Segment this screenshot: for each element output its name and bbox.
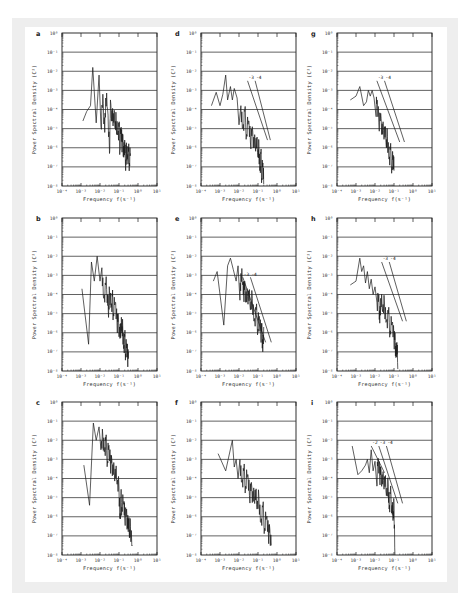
panel-letter: g xyxy=(311,30,316,38)
y-tick-label: 10⁻⁴ xyxy=(186,292,197,297)
x-tick-label: 10⁻² xyxy=(369,558,380,563)
x-tick-label: 10⁰ xyxy=(273,189,282,194)
panel-letter: b xyxy=(36,215,41,223)
panel-b: 10⁰10⁻¹10⁻²10⁻³10⁻⁴10⁻⁵10⁻⁶10⁻⁷10⁻⁸10⁻⁴1… xyxy=(31,215,161,388)
x-tick-label: 10⁻² xyxy=(94,374,105,379)
y-tick-label: 10⁻³ xyxy=(322,457,333,462)
x-tick-label: 10⁻¹ xyxy=(252,558,263,563)
x-tick-label: 10⁰ xyxy=(409,189,418,194)
x-tick-label: 10⁰ xyxy=(134,189,143,194)
y-tick-label: 10⁻³ xyxy=(322,88,333,93)
panel-letter: a xyxy=(36,30,40,38)
panel-f: 10⁰10⁻¹10⁻²10⁻³10⁻⁴10⁻⁵10⁻⁶10⁻⁷10⁻⁸10⁻⁴1… xyxy=(170,399,300,572)
y-tick-label: 10⁻² xyxy=(47,69,58,74)
spectrum-line xyxy=(218,440,271,545)
x-tick-label: 10⁻⁴ xyxy=(195,374,206,379)
y-tick-label: 10⁻³ xyxy=(186,88,197,93)
y-tick-label: 10⁻¹ xyxy=(322,50,333,55)
x-tick-label: 10⁻² xyxy=(369,374,380,379)
y-tick-label: 10⁰ xyxy=(189,400,198,405)
x-tick-label: 10⁰ xyxy=(134,558,143,563)
slope-label: -3 xyxy=(383,256,389,261)
x-tick-label: 10⁻¹ xyxy=(252,374,263,379)
y-axis-label: Power Spectral Density (C²) xyxy=(170,250,177,340)
y-tick-label: 10⁰ xyxy=(189,216,198,221)
x-tick-label: 10⁻² xyxy=(233,189,244,194)
y-tick-label: 10⁻¹ xyxy=(186,419,197,424)
y-tick-label: 10⁻⁸ xyxy=(322,369,333,374)
x-tick-label: 10¹ xyxy=(292,558,301,563)
x-tick-label: 10⁻⁴ xyxy=(56,558,67,563)
x-axis-label: Frequency f(s⁻¹) xyxy=(358,196,411,203)
x-tick-label: 10⁻¹ xyxy=(388,558,399,563)
y-tick-label: 10⁻⁸ xyxy=(186,184,197,189)
x-tick-label: 10⁰ xyxy=(273,374,282,379)
y-tick-label: 10⁻³ xyxy=(47,273,58,278)
x-tick-label: 10⁻¹ xyxy=(388,189,399,194)
y-tick-label: 10⁻¹ xyxy=(186,50,197,55)
x-tick-label: 10⁻¹ xyxy=(252,189,263,194)
x-tick-label: 10⁻² xyxy=(233,558,244,563)
y-tick-label: 10⁻¹ xyxy=(47,419,58,424)
panel-d: 10⁰10⁻¹10⁻²10⁻³10⁻⁴10⁻⁵10⁻⁶10⁻⁷10⁻⁸10⁻⁴1… xyxy=(170,30,300,203)
y-tick-label: 10⁻⁵ xyxy=(47,311,58,316)
y-tick-label: 10⁻³ xyxy=(47,457,58,462)
y-tick-label: 10⁻⁷ xyxy=(322,533,333,538)
x-tick-label: 10⁻³ xyxy=(214,189,225,194)
y-tick-label: 10⁻⁶ xyxy=(47,514,58,519)
y-tick-label: 10⁻² xyxy=(186,438,197,443)
spectral-density-figure: 10⁰10⁻¹10⁻²10⁻³10⁻⁴10⁻⁵10⁻⁶10⁻⁷10⁻⁸10⁻⁴1… xyxy=(0,0,472,601)
y-axis-label: Power Spectral Density (C²) xyxy=(31,250,38,340)
y-tick-label: 10⁰ xyxy=(189,31,198,36)
y-tick-label: 10⁻² xyxy=(322,438,333,443)
y-tick-label: 10⁻⁸ xyxy=(186,553,197,558)
y-tick-label: 10⁻⁵ xyxy=(186,126,197,131)
y-tick-label: 10⁻⁵ xyxy=(47,495,58,500)
slope-label: -4 xyxy=(251,272,257,277)
y-tick-label: 10⁻⁴ xyxy=(47,107,58,112)
y-tick-label: 10⁻³ xyxy=(322,273,333,278)
y-tick-label: 10⁻⁴ xyxy=(322,292,333,297)
x-tick-label: 10⁻³ xyxy=(350,558,361,563)
x-tick-label: 10⁻³ xyxy=(75,189,86,194)
panel-letter: d xyxy=(175,30,180,38)
y-tick-label: 10⁻⁶ xyxy=(186,514,197,519)
panel-letter: e xyxy=(175,215,180,223)
y-tick-label: 10⁻¹ xyxy=(322,419,333,424)
x-tick-label: 10⁻³ xyxy=(350,374,361,379)
y-tick-label: 10⁻² xyxy=(322,69,333,74)
panel-letter: h xyxy=(311,215,316,223)
x-tick-label: 10⁰ xyxy=(409,558,418,563)
y-tick-label: 10⁻⁸ xyxy=(322,553,333,558)
slope-label: -3 xyxy=(380,440,386,445)
y-tick-label: 10⁻⁴ xyxy=(322,107,333,112)
y-tick-label: 10⁻⁸ xyxy=(186,369,197,374)
y-tick-label: 10⁻⁵ xyxy=(322,495,333,500)
slope-label: -3 xyxy=(249,75,255,80)
x-tick-label: 10⁻² xyxy=(369,189,380,194)
spectrum-line xyxy=(352,446,395,555)
y-tick-label: 10⁻⁴ xyxy=(186,107,197,112)
x-tick-label: 10⁰ xyxy=(273,558,282,563)
y-tick-label: 10⁻⁸ xyxy=(47,369,58,374)
panel-c: 10⁰10⁻¹10⁻²10⁻³10⁻⁴10⁻⁵10⁻⁶10⁻⁷10⁻⁸10⁻⁴1… xyxy=(31,399,161,572)
y-axis-label: Power Spectral Density (C²) xyxy=(31,65,38,155)
y-tick-label: 10⁻⁷ xyxy=(47,349,58,354)
slope-label: -4 xyxy=(256,75,262,80)
y-tick-label: 10⁻⁶ xyxy=(322,145,333,150)
panel-letter: i xyxy=(311,399,313,407)
x-tick-label: 10⁻² xyxy=(94,189,105,194)
y-tick-label: 10⁻² xyxy=(47,438,58,443)
x-tick-label: 10⁻⁴ xyxy=(195,189,206,194)
panel-g: 10⁰10⁻¹10⁻²10⁻³10⁻⁴10⁻⁵10⁻⁶10⁻⁷10⁻⁸10⁻⁴1… xyxy=(306,30,436,203)
y-tick-label: 10⁻⁴ xyxy=(322,476,333,481)
x-axis-label: Frequency f(s⁻¹) xyxy=(222,381,275,388)
x-tick-label: 10⁻¹ xyxy=(113,189,124,194)
y-tick-label: 10⁻⁷ xyxy=(47,164,58,169)
panel-i: 10⁰10⁻¹10⁻²10⁻³10⁻⁴10⁻⁵10⁻⁶10⁻⁷10⁻⁸10⁻⁴1… xyxy=(306,399,436,572)
y-tick-label: 10⁻¹ xyxy=(322,235,333,240)
x-tick-label: 10⁰ xyxy=(409,374,418,379)
x-tick-label: 10⁻⁴ xyxy=(331,189,342,194)
y-tick-label: 10⁻⁵ xyxy=(47,126,58,131)
x-axis-label: Frequency f(s⁻¹) xyxy=(83,565,136,572)
